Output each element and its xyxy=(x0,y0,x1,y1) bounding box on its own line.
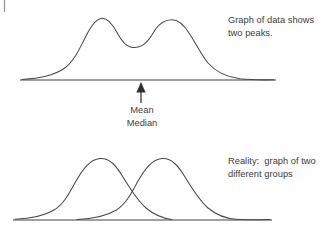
top-panel-annotation: Graph of data shows two peaks. xyxy=(228,14,314,40)
statistics-figure: Graph of data shows two peaks. Mean Medi… xyxy=(0,0,335,228)
group-one-curve xyxy=(15,159,172,220)
mean-median-arrow-icon xyxy=(136,82,145,103)
mean-median-label: Mean Median xyxy=(111,104,173,129)
bottom-panel-annotation: Reality: graph of two different groups xyxy=(228,155,316,181)
